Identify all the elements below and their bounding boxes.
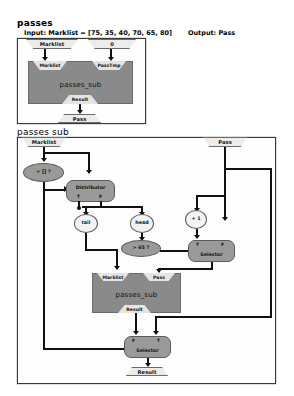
compare-node[interactable]: > 65 ? xyxy=(121,240,161,257)
connector xyxy=(43,189,66,191)
increment-node[interactable]: + 1 xyxy=(185,210,207,229)
arrow-head xyxy=(41,158,47,162)
connector xyxy=(85,249,117,251)
connector xyxy=(88,152,90,172)
tail-node[interactable]: tail xyxy=(74,214,98,233)
connector xyxy=(43,348,127,350)
arrow-head xyxy=(222,217,228,221)
selector-upper-port-t: T xyxy=(196,242,199,247)
sub-pass-input-port[interactable]: Pass xyxy=(203,137,247,147)
arrow-head xyxy=(145,363,151,367)
distributor-port-f: F xyxy=(99,194,102,199)
arrow-head xyxy=(194,235,200,239)
top-process-label: passes_sub xyxy=(29,81,132,89)
connector xyxy=(224,147,226,219)
selector-lower-port-f: F xyxy=(132,338,135,343)
selector-lower-port-t: T xyxy=(157,338,160,343)
input-label: Input: Marklist = [75, 35, 40, 70, 65, 8… xyxy=(24,29,172,37)
sub-process-label: passes_sub xyxy=(93,291,180,299)
distributor-label: Distributor xyxy=(67,185,114,190)
top-pass-output-port[interactable]: Pass xyxy=(58,114,101,123)
connector xyxy=(43,189,45,349)
arrow-head xyxy=(153,331,159,335)
selector-upper-port-f: F xyxy=(221,242,224,247)
distributor-port-t: T xyxy=(77,194,80,199)
connector xyxy=(158,268,212,270)
arrow-head xyxy=(86,170,92,174)
top-zero-input-port[interactable]: 0 xyxy=(88,39,136,49)
top-marklist-input-port[interactable]: Marklist xyxy=(26,39,78,49)
arrow-head xyxy=(77,110,83,114)
distributor-node[interactable]: Distributor xyxy=(66,180,115,202)
connector xyxy=(85,233,87,250)
connector xyxy=(82,206,143,208)
sub-result-output-port[interactable]: Result xyxy=(126,367,168,376)
selector-lower-label: Selector xyxy=(125,348,170,353)
terminator-dot xyxy=(77,206,81,210)
empty-test-node[interactable]: = [] ? xyxy=(23,163,64,182)
connector xyxy=(43,152,89,154)
connector xyxy=(135,313,137,333)
sub-diagram-title: passes sub xyxy=(17,127,69,137)
diagram-canvas: passes Input: Marklist = [75, 35, 40, 70… xyxy=(0,0,294,396)
head-node[interactable]: head xyxy=(130,214,154,233)
selector-upper-label: Selector xyxy=(189,252,234,257)
arrow-head xyxy=(133,331,139,335)
arrow-head xyxy=(114,266,120,270)
sub-marklist-input-port[interactable]: Marklist xyxy=(22,137,66,147)
output-label: Output: Pass xyxy=(188,29,235,37)
page-title: passes xyxy=(17,18,53,28)
connector xyxy=(270,168,272,318)
connector xyxy=(155,316,271,318)
connector xyxy=(224,168,272,170)
connector xyxy=(196,195,225,197)
io-summary: Input: Marklist = [75, 35, 40, 70, 65, 8… xyxy=(24,29,235,37)
